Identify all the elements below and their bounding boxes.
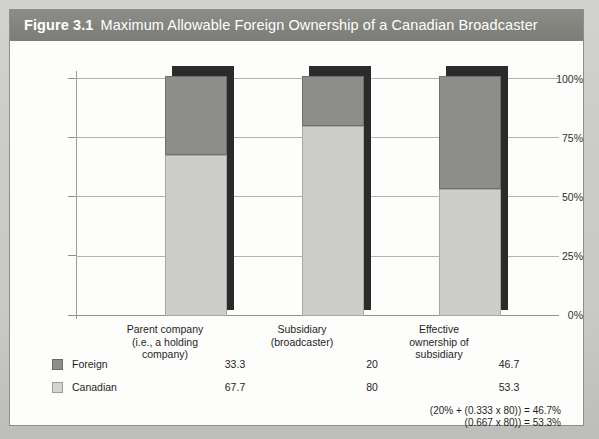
bar-segment-foreign[interactable]	[439, 76, 501, 189]
figure-container: Figure 3.1Maximum Allowable Foreign Owne…	[9, 9, 584, 426]
bar-group-subsidiary[interactable]	[302, 78, 364, 316]
value-canadian-subsidiary: 80	[327, 381, 417, 393]
x-label-line: (i.e., a holding	[90, 336, 240, 349]
value-foreign-effective-ownership: 46.7	[464, 358, 554, 370]
plot-area	[76, 78, 559, 316]
annotation-line-1: (20% + (0.333 x 80)) = 46.7%	[430, 405, 561, 416]
annotation-line-2: (0.667 x 80)) = 53.3%	[465, 417, 561, 428]
y-tick-100	[68, 78, 76, 79]
y-tick-25	[68, 255, 76, 256]
x-axis-label-parent-company: Parent company (i.e., a holding company)	[90, 323, 240, 361]
value-canadian-effective-ownership: 53.3	[464, 381, 554, 393]
legend-row-foreign[interactable]: Foreign 33.3 20 46.7	[10, 357, 583, 374]
figure-title-banner: Figure 3.1Maximum Allowable Foreign Owne…	[10, 10, 583, 41]
bar-group-effective-ownership[interactable]	[439, 78, 501, 316]
y-tick-75	[68, 137, 76, 138]
legend-row-canadian[interactable]: Canadian 67.7 80 53.3	[10, 380, 583, 397]
legend-swatch-canadian-icon	[52, 382, 63, 393]
x-label-line: ownership of	[364, 336, 514, 349]
page-background: Figure 3.1Maximum Allowable Foreign Owne…	[0, 0, 599, 439]
chart-panel: 100% 75% 50% 25% 0%	[10, 41, 583, 425]
x-label-line: Effective	[364, 323, 514, 336]
y-tick-0	[68, 315, 76, 316]
value-foreign-parent-company: 33.3	[190, 358, 280, 370]
x-axis-label-subsidiary: Subsidiary (broadcaster)	[227, 323, 377, 348]
figure-title-text: Figure 3.1Maximum Allowable Foreign Owne…	[24, 17, 538, 33]
bar-group-parent-company[interactable]	[165, 78, 227, 316]
bar-segment-canadian[interactable]	[165, 155, 227, 316]
x-label-line: Parent company	[90, 323, 240, 336]
figure-number: Figure 3.1	[24, 17, 94, 33]
legend: Foreign 33.3 20 46.7 Canadian 67.7 80 53…	[10, 357, 583, 417]
legend-label-foreign: Foreign	[72, 358, 108, 370]
bar-segment-foreign[interactable]	[302, 76, 364, 126]
page-title: Maximum Allowable Foreign Ownership of a…	[101, 17, 538, 33]
legend-label-canadian: Canadian	[72, 381, 117, 393]
legend-swatch-foreign-icon	[52, 359, 63, 370]
value-canadian-parent-company: 67.7	[190, 381, 280, 393]
bar-segment-foreign[interactable]	[165, 76, 227, 155]
bar-segment-canadian[interactable]	[439, 189, 501, 316]
bar-segment-canadian[interactable]	[302, 126, 364, 316]
y-tick-50	[68, 196, 76, 197]
value-foreign-subsidiary: 20	[327, 358, 417, 370]
x-axis-label-effective-ownership: Effective ownership of subsidiary	[364, 323, 514, 361]
x-label-line: Subsidiary	[227, 323, 377, 336]
x-label-line: (broadcaster)	[227, 336, 377, 349]
